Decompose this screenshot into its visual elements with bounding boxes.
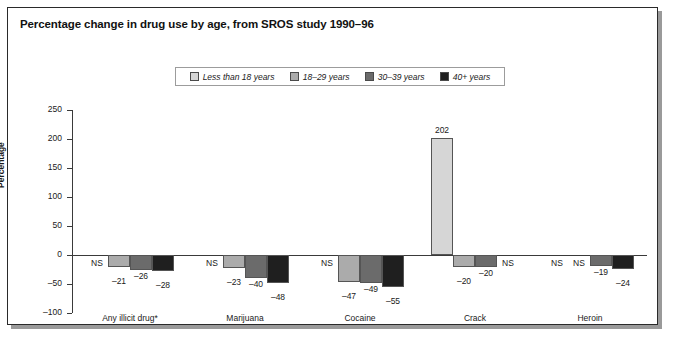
legend-swatch-icon [440,72,449,81]
legend-item: 40+ years [440,72,491,82]
figure-title: Percentage change in drug use by age, fr… [20,18,374,30]
legend-item: Less than 18 years [190,72,275,82]
chart-legend: Less than 18 years18–29 years30–39 years… [175,67,505,86]
legend-item: 18–29 years [290,72,350,82]
legend-item-label: Less than 18 years [203,72,275,82]
legend-item: 30–39 years [365,72,425,82]
y-axis-title: Percentage [0,142,6,188]
legend-item-label: 30–39 years [378,72,425,82]
legend-item-label: 40+ years [453,72,491,82]
figure-frame [7,7,658,325]
legend-swatch-icon [190,72,199,81]
figure-root: Percentage change in drug use by age, fr… [0,0,674,339]
legend-swatch-icon [365,72,374,81]
legend-item-label: 18–29 years [303,72,350,82]
legend-swatch-icon [290,72,299,81]
